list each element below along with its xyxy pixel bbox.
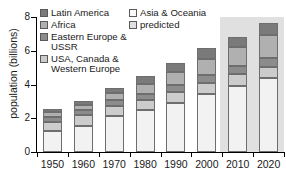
bar-segment-asia-oceania — [197, 94, 216, 152]
bar-segment-latin-america — [197, 48, 216, 59]
bar-segment-latin-america — [136, 76, 155, 84]
legend-column-right: Asia & Oceaniapredicted — [129, 8, 209, 32]
legend-swatch-icon — [40, 33, 48, 41]
bar-segment-latin-america — [43, 109, 62, 112]
bar-2000 — [197, 17, 216, 152]
y-tick-mark — [31, 118, 36, 119]
bar-segment-latin-america — [228, 37, 247, 47]
legend-item-eastern-europe-ussr[interactable]: Eastern Europe & USSR — [40, 32, 132, 53]
y-axis-tick-labels: 02468 — [0, 0, 30, 175]
bar-segment-eastern-europe-ussr — [105, 100, 124, 106]
bar-segment-latin-america — [259, 23, 278, 35]
x-tick-mark — [37, 152, 38, 157]
bar-segment-latin-america — [74, 101, 93, 105]
x-tick-mark — [284, 152, 285, 157]
legend-label: USA, Canada & Western Europe — [51, 54, 132, 75]
bar-segment-usa-canada-western-europe — [166, 92, 185, 103]
bar-1980 — [136, 17, 155, 152]
x-tick-mark — [161, 152, 162, 157]
legend-item-predicted[interactable]: predicted — [129, 20, 209, 31]
bar-segment-eastern-europe-ussr — [259, 58, 278, 66]
bar-segment-usa-canada-western-europe — [136, 100, 155, 110]
legend-label: Africa — [51, 20, 132, 30]
legend-swatch-icon — [40, 9, 48, 17]
bar-segment-asia-oceania — [259, 78, 278, 152]
bar-segment-usa-canada-western-europe — [43, 122, 62, 131]
legend-swatch-icon — [40, 21, 48, 29]
y-tick-mark — [31, 51, 36, 52]
bar-segment-asia-oceania — [43, 131, 62, 152]
y-tick-label: 0 — [4, 147, 30, 157]
legend-column-left: Latin AmericaAfricaEastern Europe & USSR… — [40, 8, 132, 75]
legend-item-asia-oceania[interactable]: Asia & Oceania — [129, 8, 209, 19]
bar-segment-eastern-europe-ussr — [43, 117, 62, 122]
bar-segment-eastern-europe-ussr — [228, 66, 247, 74]
legend-label: Eastern Europe & USSR — [51, 32, 132, 53]
bar-segment-usa-canada-western-europe — [259, 67, 278, 78]
legend-label: predicted — [140, 20, 209, 30]
x-tick-mark — [222, 152, 223, 157]
bar-segment-africa — [136, 84, 155, 94]
bar-segment-asia-oceania — [105, 116, 124, 152]
y-tick-label: 8 — [4, 12, 30, 22]
x-tick-label-2020: 2020 — [249, 159, 286, 170]
x-tick-mark — [68, 152, 69, 157]
bar-segment-africa — [74, 105, 93, 110]
bar-segment-latin-america — [105, 88, 124, 93]
y-tick-mark — [31, 17, 36, 18]
bar-segment-africa — [197, 59, 216, 75]
x-tick-mark — [191, 152, 192, 157]
bar-2010 — [228, 17, 247, 152]
legend-label: Latin America — [51, 8, 132, 18]
legend-swatch-icon — [129, 21, 137, 29]
legend-item-latin-america[interactable]: Latin America — [40, 8, 132, 19]
y-tick-mark — [31, 85, 36, 86]
x-tick-mark — [253, 152, 254, 157]
bar-segment-latin-america — [166, 63, 185, 71]
bar-segment-asia-oceania — [228, 86, 247, 152]
population-stacked-bar-chart: population (billions) 02468 195019601970… — [0, 0, 286, 175]
bar-segment-usa-canada-western-europe — [197, 83, 216, 94]
bar-1990 — [166, 17, 185, 152]
bar-segment-eastern-europe-ussr — [74, 110, 93, 115]
bar-segment-africa — [166, 72, 185, 85]
x-tick-mark — [99, 152, 100, 157]
legend-label: Asia & Oceania — [140, 8, 209, 18]
bar-segment-usa-canada-western-europe — [228, 74, 247, 86]
legend-swatch-icon — [129, 9, 137, 17]
y-tick-label: 6 — [4, 46, 30, 56]
bar-segment-eastern-europe-ussr — [197, 75, 216, 83]
bar-segment-eastern-europe-ussr — [136, 94, 155, 100]
bar-segment-africa — [259, 35, 278, 59]
y-tick-label: 2 — [4, 113, 30, 123]
y-tick-label: 4 — [4, 80, 30, 90]
bar-segment-asia-oceania — [166, 103, 185, 152]
bar-2020 — [259, 17, 278, 152]
legend-item-africa[interactable]: Africa — [40, 20, 132, 31]
x-tick-mark — [130, 152, 131, 157]
bar-segment-usa-canada-western-europe — [74, 115, 93, 126]
bar-segment-usa-canada-western-europe — [105, 106, 124, 116]
legend-swatch-icon — [40, 55, 48, 63]
bar-segment-asia-oceania — [74, 126, 93, 152]
y-tick-mark — [31, 152, 36, 153]
bar-segment-asia-oceania — [136, 110, 155, 152]
bar-segment-africa — [43, 112, 62, 116]
bar-segment-africa — [228, 47, 247, 66]
bar-segment-africa — [105, 93, 124, 100]
legend-item-usa-canada-western-europe[interactable]: USA, Canada & Western Europe — [40, 54, 132, 75]
bar-segment-eastern-europe-ussr — [166, 85, 185, 93]
